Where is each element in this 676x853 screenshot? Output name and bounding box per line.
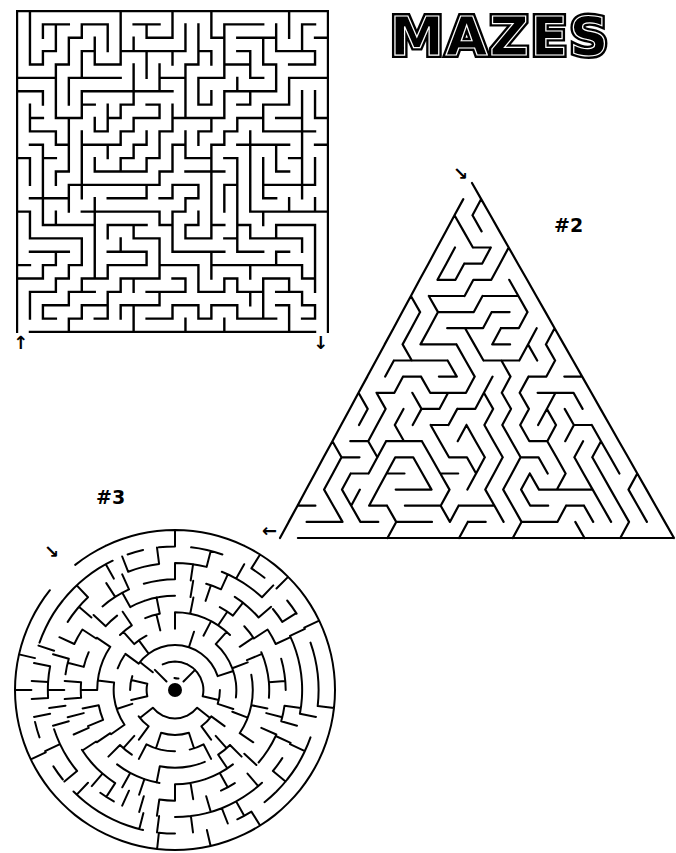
maze-3-label: #3 <box>96 486 125 508</box>
triangle-maze[interactable] <box>278 181 676 540</box>
start-arrow-up-icon: ↑ <box>13 334 28 352</box>
circular-maze[interactable] <box>12 527 338 853</box>
start-arrow-down-right-icon: ↘ <box>44 543 59 561</box>
page-title: MAZES <box>390 6 646 68</box>
start-arrow-down-right-icon: ↘ <box>453 165 468 183</box>
goal-dot <box>168 683 182 697</box>
